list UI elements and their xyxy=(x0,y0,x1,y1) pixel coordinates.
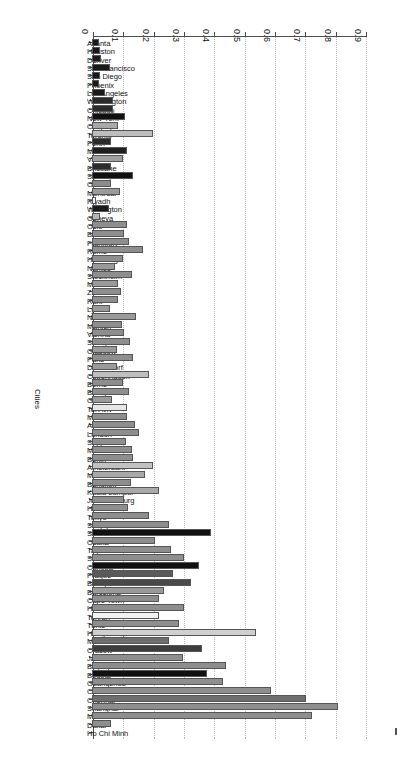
bar xyxy=(92,496,124,503)
bar xyxy=(92,570,173,577)
bar xyxy=(92,645,202,652)
bar xyxy=(92,155,123,162)
x-axis-tick xyxy=(275,32,276,37)
bar xyxy=(92,130,153,137)
bar xyxy=(92,288,121,295)
x-axis-tick-label: 0.4 xyxy=(201,29,211,42)
x-axis-tick-label: 0.5 xyxy=(232,29,242,42)
bar xyxy=(92,321,122,328)
bar xyxy=(92,296,118,303)
bar xyxy=(92,487,159,494)
bar xyxy=(92,271,132,278)
bar xyxy=(92,72,100,79)
bar xyxy=(92,687,271,694)
bar xyxy=(92,604,184,611)
bar xyxy=(92,404,127,411)
bar xyxy=(92,379,123,386)
bar xyxy=(92,105,113,112)
bar xyxy=(92,654,183,661)
bar xyxy=(92,388,129,395)
bar xyxy=(92,712,312,719)
bar xyxy=(92,97,113,104)
bar xyxy=(92,230,124,237)
bar xyxy=(92,205,109,212)
x-axis-tick xyxy=(305,32,306,37)
x-axis-tick-label: 0 xyxy=(80,29,90,34)
x-axis-tick xyxy=(93,32,94,37)
grid-line xyxy=(365,37,367,739)
x-axis-tick-label: 0.2 xyxy=(141,29,151,42)
x-axis-tick-label: 0.6 xyxy=(262,29,272,42)
bar xyxy=(92,238,129,245)
x-axis-tick xyxy=(245,32,246,37)
x-axis-tick xyxy=(154,32,155,37)
bar xyxy=(92,429,139,436)
bar xyxy=(92,479,131,486)
bar xyxy=(92,371,149,378)
bar xyxy=(92,629,256,636)
x-axis-tick-label: 0.3 xyxy=(171,29,181,42)
grid-line xyxy=(335,37,337,739)
bar xyxy=(92,346,117,353)
bar xyxy=(92,280,118,287)
bar xyxy=(92,637,169,644)
bar xyxy=(92,363,117,370)
bar xyxy=(92,313,136,320)
bar xyxy=(92,138,111,145)
bar xyxy=(92,720,111,727)
bar xyxy=(92,338,130,345)
bar xyxy=(92,546,171,553)
bar xyxy=(92,255,123,262)
bar xyxy=(92,122,118,129)
x-axis-tick xyxy=(336,32,337,37)
bar xyxy=(92,554,184,561)
bar xyxy=(92,188,120,195)
y-axis-title: Cities xyxy=(33,389,42,409)
bar xyxy=(92,679,223,686)
bar xyxy=(92,354,133,361)
bar xyxy=(92,703,338,710)
bar xyxy=(92,446,132,453)
bar xyxy=(92,413,127,420)
bar xyxy=(92,39,99,46)
rotated-plot-canvas: 00.10.20.30.40.50.60.70.80.9 AtlantaHous… xyxy=(0,0,397,777)
bar xyxy=(92,113,125,120)
bar xyxy=(92,396,112,403)
bar xyxy=(92,662,226,669)
bar xyxy=(92,612,159,619)
bar xyxy=(92,438,126,445)
grid-line xyxy=(304,37,306,739)
bar xyxy=(92,55,101,62)
x-axis-tick xyxy=(366,32,367,37)
bar xyxy=(92,330,124,337)
x-axis-tick xyxy=(184,32,185,37)
bar xyxy=(92,537,155,544)
bar xyxy=(92,147,127,154)
bar xyxy=(92,695,306,702)
bar xyxy=(92,246,143,253)
bar xyxy=(92,221,127,228)
bar xyxy=(92,421,135,428)
x-axis-tick-label: 0.7 xyxy=(292,29,302,42)
category-label: Ho Chi Minh xyxy=(87,729,128,738)
bar xyxy=(92,504,128,511)
x-axis-tick-label: 0.8 xyxy=(323,29,333,42)
bar xyxy=(92,197,96,204)
bar xyxy=(92,562,199,569)
bar xyxy=(92,172,133,179)
bar xyxy=(92,587,164,594)
x-axis-tick xyxy=(214,32,215,37)
x-axis-tick-label: 0.1 xyxy=(110,29,120,42)
bar xyxy=(92,263,115,270)
bar xyxy=(92,462,153,469)
x-axis-tick-label: 0.9 xyxy=(353,29,363,42)
bar xyxy=(92,579,191,586)
bar xyxy=(92,89,105,96)
chart-page: 00.10.20.30.40.50.60.70.80.9 AtlantaHous… xyxy=(0,0,397,777)
bar xyxy=(92,305,110,312)
bar xyxy=(92,180,111,187)
grid-line xyxy=(274,37,276,739)
bar xyxy=(92,213,100,220)
bar xyxy=(92,521,169,528)
bar xyxy=(92,471,145,478)
